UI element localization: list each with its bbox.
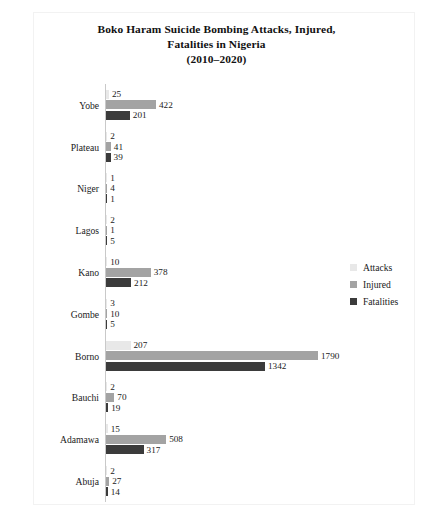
bar-row: 70 [106,393,318,402]
bar-row: 39 [106,153,318,162]
bar-value-label: 25 [109,89,121,99]
bar-group: Yobe25422201 [0,84,433,126]
bar-value-label: 422 [156,100,173,110]
bar-value-label: 207 [131,340,148,350]
bar-row: 27 [106,477,318,486]
bar-row: 4 [106,184,318,193]
bar-value-label: 2 [107,215,115,225]
bar-row: 15 [106,424,318,433]
legend-item[interactable]: Fatalities [350,293,432,310]
bar-row: 1 [106,173,318,182]
bar-group: Plateau24139 [0,126,433,168]
bar-row: 1 [106,194,318,203]
bar-value-label: 1 [107,173,115,183]
bar-value-label: 1 [107,225,115,235]
bar-value-label: 5 [107,236,115,246]
category-label: Lagos [76,225,99,236]
chart-figure: Boko Haram Suicide Bombing Attacks, Inju… [0,0,433,520]
bar-group: Borno20717901342 [0,335,433,377]
bar-value-label: 41 [111,142,123,152]
bar-injured [106,100,156,109]
bar-row: 201 [106,111,318,120]
bar-value-label: 508 [166,434,183,444]
bar-row: 2 [106,215,318,224]
bar-value-label: 4 [107,183,115,193]
bar-value-label: 2 [107,131,115,141]
bar-row: 10 [106,309,318,318]
bar-row: 1790 [106,351,318,360]
legend-label: Attacks [363,262,392,273]
bar-value-label: 1342 [265,361,286,371]
bar-group: Adamawa15508317 [0,418,433,460]
category-label: Borno [75,350,99,361]
bar-value-label: 3 [107,298,115,308]
bar-fatalities [106,278,131,287]
bar-value-label: 378 [151,267,168,277]
bar-group: Lagos215 [0,209,433,251]
bar-row: 5 [106,320,318,329]
bar-value-label: 70 [114,392,126,402]
bar-row: 10 [106,257,318,266]
category-label: Bauchi [72,392,99,403]
bar-row: 3 [106,299,318,308]
bar-value-label: 10 [107,309,119,319]
bar-row: 378 [106,268,318,277]
category-label: Abuja [76,476,99,487]
bar-row: 212 [106,278,318,287]
bar-fatalities [106,445,144,454]
bar-row: 1342 [106,362,318,371]
bar-row: 25 [106,90,318,99]
legend-item[interactable]: Attacks [350,259,432,276]
bar-value-label: 27 [109,476,121,486]
bar-row: 2 [106,132,318,141]
legend-label: Fatalities [363,296,398,307]
bar-injured [106,393,114,402]
bar-value-label: 14 [108,487,120,497]
chart-title-line-3: (2010–2020) [0,52,433,67]
bar-injured [106,268,151,277]
category-label: Kano [78,267,99,278]
bar-group: Bauchi27019 [0,377,433,419]
bar-attacks [106,341,131,350]
bar-value-label: 2 [107,382,115,392]
bar-row: 2 [106,382,318,391]
bar-group: Abuja22714 [0,460,433,502]
bar-row: 422 [106,100,318,109]
bar-value-label: 19 [108,403,120,413]
chart-legend: AttacksInjuredFatalities [350,259,432,310]
bar-row: 14 [106,487,318,496]
bar-fatalities [106,362,265,371]
bar-injured [106,351,318,360]
category-label: Adamawa [60,434,99,445]
chart-title: Boko Haram Suicide Bombing Attacks, Inju… [0,22,433,68]
legend-label: Injured [363,279,391,290]
bar-row: 207 [106,341,318,350]
bar-row: 5 [106,236,318,245]
bar-value-label: 1 [107,194,115,204]
bar-row: 508 [106,435,318,444]
bar-row: 41 [106,142,318,151]
category-label: Plateau [71,141,99,152]
bar-row: 317 [106,445,318,454]
chart-title-line-1: Boko Haram Suicide Bombing Attacks, Inju… [0,22,433,37]
bar-injured [106,435,166,444]
category-label: Yobe [79,99,99,110]
bar-row: 1 [106,226,318,235]
bar-value-label: 39 [111,152,123,162]
bar-row: 19 [106,403,318,412]
bar-value-label: 201 [130,110,147,120]
chart-title-line-2: Fatalities in Nigeria [0,37,433,52]
bar-value-label: 5 [107,319,115,329]
bar-value-label: 1790 [318,351,339,361]
legend-swatch-icon [350,264,357,271]
bar-value-label: 317 [144,445,161,455]
legend-item[interactable]: Injured [350,276,432,293]
category-label: Niger [77,183,99,194]
legend-swatch-icon [350,281,357,288]
bar-group: Niger141 [0,168,433,210]
bar-row: 2 [106,466,318,475]
bar-value-label: 10 [107,257,119,267]
category-label: Gombe [71,308,99,319]
bar-value-label: 212 [131,278,148,288]
bar-value-label: 15 [108,424,120,434]
